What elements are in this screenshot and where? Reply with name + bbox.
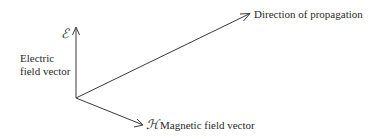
propagation-arrow [76,14,250,99]
electric-field-label-line2: field vector [20,65,70,78]
electric-field-symbol: ℰ [61,27,69,41]
propagation-label: Direction of propagation [254,8,363,21]
magnetic-field-symbol: ℋ [146,118,159,132]
em-wave-diagram: ℰ Electric field vector Direction of pro… [0,0,388,139]
electric-field-label-line1: Electric [20,52,54,65]
electric-field-arrow [73,27,80,98]
magnetic-field-label: Magnetic field vector [160,119,255,132]
magnetic-field-arrow [76,98,143,127]
